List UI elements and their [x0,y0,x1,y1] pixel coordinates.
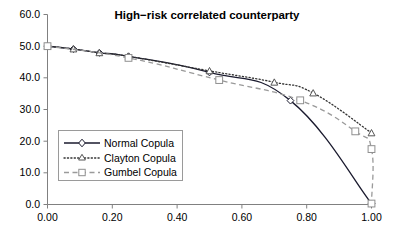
series-line [48,46,372,133]
chart-container: High−risk correlated counterparty 0.0 10… [0,0,393,237]
y-axis-ticks: 0.0 10.0 20.0 30.0 40.0 50.0 60.0 [20,8,48,210]
chart-legend: Normal Copula Clayton Copula Gumbel Copu… [59,131,183,181]
chart-title: High−risk correlated counterparty [114,9,300,21]
square-marker-icon [352,128,359,135]
legend-label-gumbel: Gumbel Copula [104,166,177,178]
y-tick-label-10: 10.0 [20,166,41,178]
y-tick-label-40: 40.0 [20,71,41,83]
x-tick-label-080: 0.80 [296,211,317,223]
square-marker-icon [125,54,132,61]
x-tick-label-060: 0.60 [232,211,253,223]
square-marker-icon [216,77,223,84]
square-marker-icon [79,169,85,175]
triangle-marker-icon [206,67,213,73]
legend-label-clayton: Clayton Copula [104,152,176,164]
line-chart: High−risk correlated counterparty 0.0 10… [0,0,393,237]
x-tick-label-100: 1.00 [361,211,382,223]
series-clayton-copula [44,43,375,136]
square-marker-icon [44,43,51,50]
legend-label-normal: Normal Copula [104,137,174,149]
square-marker-icon [368,200,375,207]
triangle-marker-icon [310,90,317,96]
x-axis-ticks: 0.00 0.20 0.40 0.60 0.80 1.00 [37,205,382,224]
x-tick-label-000: 0.00 [37,211,58,223]
y-tick-label-0: 0.0 [25,198,40,210]
square-marker-icon [368,146,375,153]
y-tick-label-20: 20.0 [20,135,41,147]
square-marker-icon [297,97,304,104]
x-tick-label-020: 0.20 [102,211,123,223]
y-tick-label-30: 30.0 [20,103,41,115]
y-tick-label-50: 50.0 [20,40,41,52]
y-tick-label-60: 60.0 [20,8,41,20]
x-tick-label-040: 0.40 [167,211,188,223]
series-layer [44,43,375,207]
